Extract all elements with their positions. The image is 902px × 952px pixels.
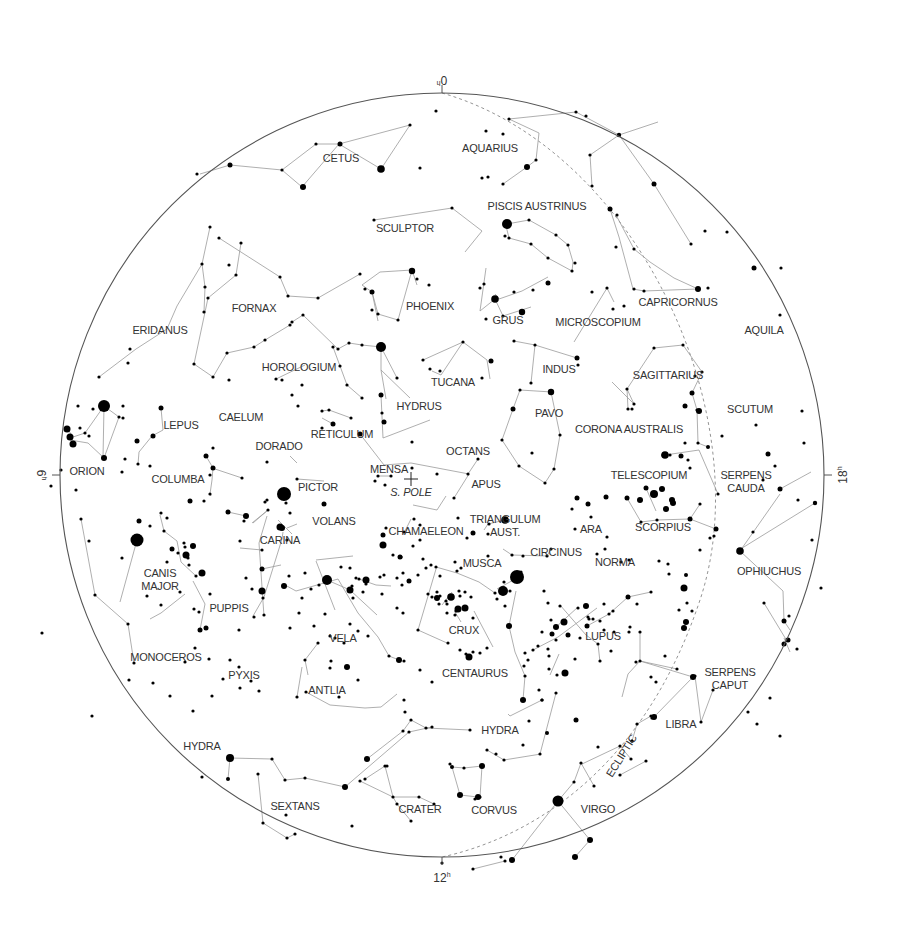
star xyxy=(511,407,516,412)
star xyxy=(453,560,456,563)
star xyxy=(590,184,593,187)
star xyxy=(314,142,317,145)
star xyxy=(447,593,455,601)
constellation-line xyxy=(695,676,713,722)
constellation-label-puppis: PUPPIS xyxy=(209,602,248,614)
star xyxy=(400,583,403,586)
star xyxy=(566,633,571,638)
star xyxy=(266,508,269,511)
star xyxy=(698,548,701,551)
star xyxy=(462,605,469,612)
constellation-label-antlia: ANTLIA xyxy=(308,684,346,696)
constellation-label-tucana: TUCANA xyxy=(431,376,476,388)
star xyxy=(512,339,515,342)
constellation-line xyxy=(292,315,303,322)
star xyxy=(696,441,699,444)
star xyxy=(570,269,573,272)
star xyxy=(471,650,474,653)
constellation-label-volans: VOLANS xyxy=(312,515,355,527)
star xyxy=(523,651,526,654)
constellation-line xyxy=(468,459,478,474)
star xyxy=(377,165,385,173)
star xyxy=(695,286,701,292)
star xyxy=(572,854,578,860)
star xyxy=(252,345,255,348)
star xyxy=(592,784,595,787)
star xyxy=(755,722,758,725)
star xyxy=(681,585,688,592)
constellation-lines xyxy=(67,112,815,869)
star xyxy=(347,341,350,344)
star xyxy=(237,628,240,631)
constellation-label-telescopium: TELESCOPIUM xyxy=(611,469,688,481)
star xyxy=(576,363,579,366)
star xyxy=(654,680,657,683)
star xyxy=(479,763,485,769)
star xyxy=(148,464,151,467)
star xyxy=(657,559,660,562)
star xyxy=(211,466,216,471)
star xyxy=(434,595,440,601)
star xyxy=(403,710,406,713)
star xyxy=(399,555,402,558)
star xyxy=(524,164,530,170)
star xyxy=(659,486,665,492)
star xyxy=(186,556,189,559)
star xyxy=(170,547,175,552)
constellation-label-sextans: SEXTANS xyxy=(270,800,319,812)
star xyxy=(351,596,354,599)
star xyxy=(370,308,373,311)
star xyxy=(76,404,79,407)
star xyxy=(363,777,366,780)
constellation-line xyxy=(200,144,381,187)
star xyxy=(288,511,291,514)
constellation-line xyxy=(513,390,520,409)
star xyxy=(280,168,283,171)
constellation-line xyxy=(512,801,558,860)
star xyxy=(649,675,652,678)
star xyxy=(430,725,433,728)
star xyxy=(358,779,361,782)
star xyxy=(391,795,394,798)
star xyxy=(457,589,460,592)
star xyxy=(227,378,230,381)
constellation-line xyxy=(473,861,505,869)
constellation-line xyxy=(240,548,262,550)
star xyxy=(356,678,359,681)
star xyxy=(553,796,564,807)
constellation-line xyxy=(193,581,205,630)
constellation-label-centaurus: CENTAURUS xyxy=(442,667,508,679)
star xyxy=(545,731,549,735)
star xyxy=(226,777,230,781)
star xyxy=(151,434,156,439)
star xyxy=(699,720,702,723)
constellation-line xyxy=(540,693,556,754)
star xyxy=(686,458,689,461)
star xyxy=(638,630,641,633)
star xyxy=(131,534,144,547)
star xyxy=(542,589,545,592)
star xyxy=(208,473,211,476)
constellation-line xyxy=(383,420,430,438)
star xyxy=(378,575,381,578)
star xyxy=(607,612,610,615)
star xyxy=(376,342,386,352)
star xyxy=(458,594,461,597)
constellation-line xyxy=(230,758,345,787)
star xyxy=(584,114,587,117)
constellation-line xyxy=(640,661,693,677)
star xyxy=(348,622,351,625)
star xyxy=(300,184,306,190)
star xyxy=(635,602,638,605)
constellation-label-horologium: HOROLOGIUM xyxy=(262,361,336,373)
star xyxy=(527,719,530,722)
star xyxy=(401,571,404,574)
star xyxy=(70,441,77,448)
star xyxy=(796,498,799,501)
star xyxy=(280,378,283,381)
star xyxy=(200,775,203,778)
star xyxy=(396,657,402,663)
star xyxy=(49,484,52,487)
star xyxy=(416,628,419,631)
star xyxy=(605,535,608,538)
